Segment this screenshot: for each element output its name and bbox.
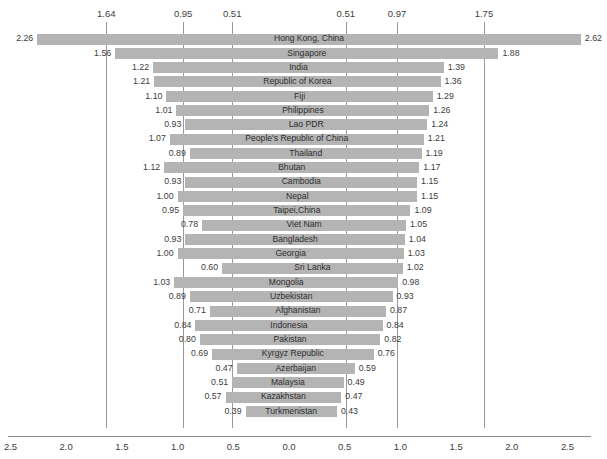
bar-value-left: 0.93: [139, 176, 181, 187]
bar-value-right: 1.17: [423, 162, 465, 173]
bar-value-left: 1.21: [108, 76, 150, 87]
axis-tick-label-9: 2.0: [492, 441, 532, 452]
bar-bangladesh: [185, 234, 404, 245]
bar-value-left: 1.22: [107, 62, 149, 73]
bar-row: Azerbaijan0.470.59: [0, 362, 599, 376]
axis-tick-label-10: 2.5: [548, 441, 588, 452]
bar-value-right: 1.29: [437, 91, 479, 102]
bar-uzbekistan: [190, 291, 393, 302]
bar-indonesia: [195, 320, 382, 331]
bar-value-right: 1.88: [502, 48, 544, 59]
bar-thailand: [190, 148, 422, 159]
axis-tick-label-6: 0.5: [325, 441, 365, 452]
bar-value-right: 0.49: [348, 377, 390, 388]
bar-value-right: 0.98: [402, 277, 444, 288]
bar-row: Republic of Korea1.211.36: [0, 75, 599, 89]
reference-tick-0: [106, 22, 107, 32]
bar-value-left: 0.89: [144, 291, 186, 302]
bar-pakistan: [200, 334, 380, 345]
bar-kazakhstan: [226, 392, 342, 403]
axis-tick-label-4: 0.5: [213, 441, 253, 452]
reference-line-label-3: 0.51: [326, 8, 366, 19]
bar-row: Kyrgyz Republic0.690.76: [0, 347, 599, 361]
reference-tick-4: [397, 22, 398, 32]
bar-value-right: 0.76: [378, 348, 420, 359]
bar-malaysia: [232, 377, 343, 388]
bar-taipei-china: [183, 205, 410, 216]
reference-tick-3: [346, 22, 347, 32]
bar-value-right: 1.05: [410, 219, 452, 230]
bar-value-right: 1.03: [408, 248, 450, 259]
bar-value-right: 0.87: [390, 305, 432, 316]
bottom-axis-line: [8, 436, 591, 437]
axis-tick-label-7: 1.0: [380, 441, 420, 452]
bar-value-left: 0.60: [176, 262, 218, 273]
bar-row: Turkmenistan0.390.43: [0, 405, 599, 419]
bar-value-left: 1.00: [132, 248, 174, 259]
reference-line-label-5: 1.75: [464, 8, 504, 19]
bar-value-left: 0.47: [191, 363, 233, 374]
bar-value-right: 0.82: [384, 334, 426, 345]
bar-row: Pakistan0.800.82: [0, 333, 599, 347]
bar-row: Afghanistan0.710.87: [0, 304, 599, 318]
bar-value-left: 0.84: [149, 320, 191, 331]
bar-value-left: 0.39: [200, 406, 242, 417]
bar-republic-of-korea: [154, 76, 440, 87]
axis-tick-label-2: 1.5: [102, 441, 142, 452]
bar-row: Sri Lanka0.601.02: [0, 261, 599, 275]
reference-tick-2: [232, 22, 233, 32]
bar-row: People's Republic of China1.071.21: [0, 132, 599, 146]
bar-fiji: [166, 91, 432, 102]
bar-value-right: 1.19: [426, 148, 468, 159]
reference-tick-5: [484, 22, 485, 32]
bar-row: Malaysia0.510.49: [0, 376, 599, 390]
bar-row: Singapore1.561.88: [0, 46, 599, 60]
bar-value-left: 0.93: [139, 234, 181, 245]
bar-azerbaijan: [237, 363, 355, 374]
bar-value-right: 0.43: [341, 406, 383, 417]
bar-philippines: [176, 105, 429, 116]
bar-value-right: 2.62: [585, 33, 607, 44]
bar-value-right: 1.36: [445, 76, 487, 87]
bar-row: Thailand0.891.19: [0, 147, 599, 161]
bar-row: Kazakhstan0.570.47: [0, 390, 599, 404]
axis-tick-label-3: 1.0: [158, 441, 198, 452]
bar-row: Lao PDR0.931.24: [0, 118, 599, 132]
bar-hong-kong-china: [37, 34, 581, 45]
bar-value-right: 1.15: [421, 176, 463, 187]
bar-value-left: 1.10: [120, 91, 162, 102]
bar-value-left: 0.93: [139, 119, 181, 130]
axis-tick-label-8: 1.5: [436, 441, 476, 452]
axis-tick-label-0: 2.5: [0, 441, 31, 452]
bar-row: Indonesia0.840.84: [0, 319, 599, 333]
bar-value-left: 1.00: [132, 191, 174, 202]
bar-value-left: 1.03: [128, 277, 170, 288]
bar-value-right: 1.09: [414, 205, 456, 216]
bar-value-left: 0.78: [156, 219, 198, 230]
reference-line-label-0: 1.64: [86, 8, 126, 19]
bar-row: Philippines1.011.26: [0, 104, 599, 118]
bar-kyrgyz-republic: [212, 349, 374, 360]
bar-value-left: 1.12: [118, 162, 160, 173]
reference-tick-1: [183, 22, 184, 32]
bar-value-right: 1.24: [431, 119, 473, 130]
bar-turkmenistan: [246, 406, 337, 417]
bar-row: Georgia1.001.03: [0, 247, 599, 261]
bar-india: [153, 62, 444, 73]
bar-row: Mongolia1.030.98: [0, 276, 599, 290]
bar-afghanistan: [210, 306, 386, 317]
bar-row: Bangladesh0.931.04: [0, 233, 599, 247]
bar-rows: Hong Kong, China2.262.62Singapore1.561.8…: [0, 32, 599, 419]
bar-people-s-republic-of-china: [170, 134, 424, 145]
axis-tick-label-1: 2.0: [46, 441, 86, 452]
bar-value-left: 0.57: [180, 391, 222, 402]
reference-line-label-1: 0.95: [163, 8, 203, 19]
bar-value-right: 0.59: [359, 363, 401, 374]
bar-value-left: 0.80: [154, 334, 196, 345]
bar-bhutan: [164, 162, 419, 173]
bar-mongolia: [174, 277, 398, 288]
axis-tick-label-5: 0.0: [269, 441, 309, 452]
bar-sri-lanka: [222, 263, 402, 274]
bar-value-right: 0.84: [387, 320, 429, 331]
